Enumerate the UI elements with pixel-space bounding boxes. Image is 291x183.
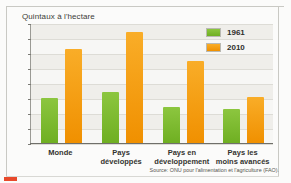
bar-2010-1 [126,32,143,143]
bar-2010-3 [247,97,264,144]
x-axis-line [30,143,273,144]
accent-mark [4,177,17,181]
frame-border-left [6,6,7,177]
y-axis-tick-mark [28,39,31,40]
y-axis-tick-mark [28,54,31,55]
y-axis-tick-mark [28,99,31,100]
x-axis-label: Pays en développement [152,148,213,166]
y-axis-tick-mark [28,84,31,85]
legend-item-2010[interactable]: 2010 [206,43,270,52]
frame-border-bottom [6,176,279,177]
bar-1961-0 [41,98,58,143]
bar-1961-2 [163,107,180,143]
bar-group [38,23,99,143]
y-axis-tick-mark [28,129,31,130]
bar-1961-3 [223,109,240,144]
bar-group [99,23,160,143]
chart-title: Quintaux à l'hectare [22,12,95,21]
legend-label: 2010 [227,43,245,52]
bar-2010-2 [187,61,204,144]
x-axis-label: Pays les moins avancés [212,148,273,166]
y-axis-tick-mark [28,114,31,115]
chart-legend: 19612010 [206,28,270,58]
legend-swatch-icon [206,28,221,37]
bar-2010-0 [65,49,82,144]
frame-border-top [6,6,284,7]
y-axis-tick-mark [28,24,31,25]
x-axis-label: Monde [30,148,91,157]
gridline [30,144,273,145]
legend-label: 1961 [227,28,245,37]
legend-item-1961[interactable]: 1961 [206,28,270,37]
y-axis-tick-mark [28,144,31,145]
y-axis-tick-mark [28,69,31,70]
bar-1961-1 [102,92,119,143]
chart-figure: Quintaux à l'hectare 0510152025303540 Mo… [0,0,291,183]
source-note: Source: ONU pour l'alimentation et l'agr… [150,167,279,173]
legend-swatch-icon [206,43,221,52]
x-axis-label: Pays développés [91,148,152,166]
